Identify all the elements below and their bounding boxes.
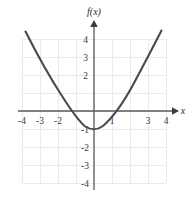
- y-tick-label-2: 2: [83, 71, 88, 81]
- x-axis-label: x: [180, 105, 186, 116]
- y-tick-label--2: -2: [81, 143, 89, 153]
- parabola-figure: -4 -3 -2 1 3 4 4 3 2 -1 -2 -3 -4 f(x) x: [0, 0, 187, 198]
- x-axis-arrow: [172, 107, 179, 115]
- graph-canvas: -4 -3 -2 1 3 4 4 3 2 -1 -2 -3 -4 f(x) x: [0, 0, 187, 198]
- y-tick-label--3: -3: [81, 161, 89, 171]
- y-tick-label-3: 3: [83, 53, 88, 63]
- y-tick-label--4: -4: [81, 179, 89, 189]
- x-tick-label--2: -2: [54, 116, 62, 126]
- x-axis: [18, 107, 179, 115]
- y-axis-arrow: [90, 20, 98, 27]
- x-tick-label-4: 4: [164, 116, 169, 126]
- y-axis-label: f(x): [87, 6, 102, 18]
- y-tick-label-4: 4: [83, 35, 88, 45]
- x-tick-label-3: 3: [146, 116, 151, 126]
- x-tick-label--3: -3: [36, 116, 44, 126]
- y-tick-label--1: -1: [81, 125, 89, 135]
- x-tick-label--4: -4: [18, 116, 26, 126]
- x-tick-label-1: 1: [110, 116, 115, 126]
